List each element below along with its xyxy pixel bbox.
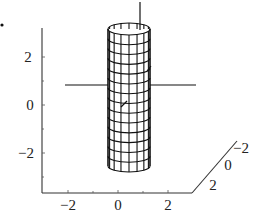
axis-ticks	[42, 57, 168, 193]
y-origin-axis-inner	[121, 101, 127, 107]
x-tick-label: 2	[164, 197, 172, 210]
y-tick-label: −2	[233, 140, 249, 156]
y-tick-label: 2	[209, 177, 217, 193]
z-tick-label: −2	[18, 145, 34, 161]
marker-dot	[0, 23, 3, 26]
z-tick-label: 0	[26, 97, 34, 113]
z-tick-label: 2	[24, 49, 32, 65]
x-tick-labels: −2 0 2	[60, 197, 172, 210]
x-tick-label: −2	[60, 197, 76, 210]
x-tick-label: 0	[114, 197, 122, 210]
y-tick-label: 0	[224, 157, 232, 173]
axes-frame	[42, 28, 237, 193]
z-tick-labels: 2 0 −2	[18, 49, 34, 161]
cylinder-wireframe	[108, 23, 150, 172]
cylinder-3d-plot: 2 0 −2 −2 0 2 2 0 −2	[0, 0, 259, 210]
